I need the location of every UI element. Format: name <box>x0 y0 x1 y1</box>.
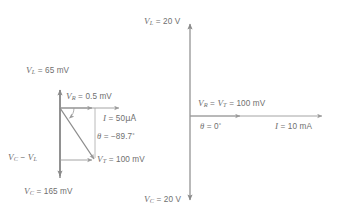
label-right-v-c: VC = 20 V <box>144 194 181 204</box>
label-left-v-c-minus-v-l: VC − VL <box>8 152 37 162</box>
label-right-theta: θ = 0° <box>200 121 221 131</box>
label-left-v-c: VC = 165 mV <box>24 186 73 196</box>
label-left-theta: θ = −89.7° <box>97 131 135 141</box>
label-left-v-l: VL = 65 mV <box>26 65 69 75</box>
vector-v-t-resultant <box>60 108 94 159</box>
phasor-diagram-figure: VL = 65 mV VR = 0.5 mV I = 50μA θ = −89.… <box>0 0 339 220</box>
label-left-v-r: VR = 0.5 mV <box>66 91 112 101</box>
label-right-current: I = 10 mA <box>275 121 312 131</box>
label-left-v-t: VT = 100 mV <box>97 154 145 164</box>
label-left-current: I = 50μA <box>103 113 136 123</box>
right-diagram-vectors <box>190 24 322 200</box>
label-right-v-l: VL = 20 V <box>144 16 180 26</box>
label-right-v-r-eq-v-t: VR = VT = 100 mV <box>198 98 265 108</box>
angle-arc-theta <box>69 108 74 118</box>
